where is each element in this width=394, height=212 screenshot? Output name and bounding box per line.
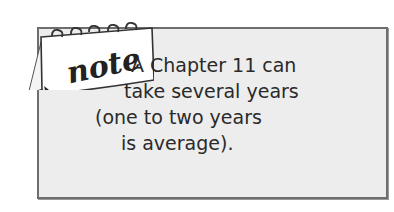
note-line: take several years [124, 78, 299, 104]
note-line: is average). [121, 130, 233, 156]
note-line: (one to two years [95, 104, 262, 130]
note-line: A Chapter 11 can [131, 52, 296, 78]
